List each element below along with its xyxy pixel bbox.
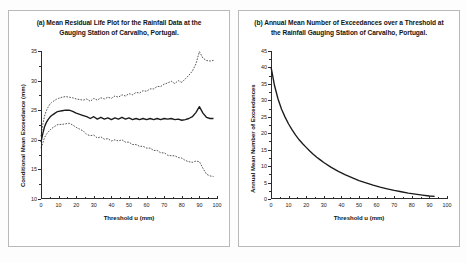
chart-a-x-tick — [41, 196, 42, 199]
chart-b-x-tick-label: 70 — [391, 202, 397, 208]
chart-a-y-tick-label: 25 — [31, 107, 37, 113]
chart-b-y-tick — [268, 117, 271, 118]
chart-a-title-line2: Gauging Station of Carvalho, Portugal. — [15, 28, 223, 38]
chart-b-series-line — [271, 67, 435, 197]
chart-b-x-minor-tick — [385, 197, 386, 199]
chart-b-y-tick-label: 35 — [261, 81, 267, 87]
chart-a-x-tick — [147, 196, 148, 199]
chart-b-x-tick-label: 90 — [426, 202, 432, 208]
chart-a-x-tick-label: 30 — [91, 202, 97, 208]
chart-a-x-minor-tick — [208, 197, 209, 199]
chart-b-y-tick-label: 25 — [261, 114, 267, 120]
chart-a-y-tick — [38, 169, 41, 170]
chart-b-x-tick-label: 0 — [270, 202, 273, 208]
chart-a-x-tick — [164, 196, 165, 199]
chart-b-y-minor-tick — [269, 109, 271, 110]
chart-a-x-tick — [199, 196, 200, 199]
chart-b-x-tick-label: 50 — [356, 202, 362, 208]
chart-b-curves — [271, 51, 447, 199]
chart-b-y-tick-label: 0 — [264, 196, 267, 202]
chart-a-x-tick-label: 40 — [108, 202, 114, 208]
chart-a-x-minor-tick — [138, 197, 139, 199]
chart-b-title-line1: (b) Annual Mean Number of Exceedances ov… — [245, 18, 453, 28]
chart-a-x-minor-tick — [50, 197, 51, 199]
chart-a-x-tick-label: 50 — [126, 202, 132, 208]
chart-panel-a: (a) Mean Residual Life Plot for the Rain… — [8, 10, 230, 247]
chart-b-x-tick — [447, 196, 448, 199]
chart-b-y-tick — [268, 100, 271, 101]
chart-b-x-minor-tick — [315, 197, 316, 199]
chart-a-curves — [41, 51, 217, 199]
chart-b-y-tick — [268, 166, 271, 167]
chart-a-x-minor-tick — [155, 197, 156, 199]
chart-b-y-tick-label: 20 — [261, 130, 267, 136]
chart-b-x-tick — [271, 196, 272, 199]
chart-a-y-tick-label: 30 — [31, 78, 37, 84]
chart-b-x-minor-tick — [403, 197, 404, 199]
chart-a-series-line — [41, 123, 213, 176]
chart-b-x-tick-label: 60 — [374, 202, 380, 208]
chart-a-x-minor-tick — [173, 197, 174, 199]
chart-b-y-tick — [268, 51, 271, 52]
chart-a-title-line1: (a) Mean Residual Life Plot for the Rain… — [15, 18, 223, 28]
chart-b-x-minor-tick — [421, 197, 422, 199]
chart-a-x-tick — [111, 196, 112, 199]
chart-b-x-tick — [359, 196, 360, 199]
chart-a-x-tick — [182, 196, 183, 199]
chart-b-y-minor-tick — [269, 76, 271, 77]
chart-b-x-minor-tick — [350, 197, 351, 199]
chart-b-y-axis-title: Annual Mean Number of Exceedances — [250, 84, 256, 193]
chart-b-y-minor-tick — [269, 158, 271, 159]
chart-a-series-line — [41, 107, 213, 143]
chart-a-x-minor-tick — [191, 197, 192, 199]
chart-b-y-tick — [268, 67, 271, 68]
chart-b-y-tick — [268, 84, 271, 85]
figure-page: (a) Mean Residual Life Plot for the Rain… — [0, 0, 467, 263]
chart-a-x-tick — [59, 196, 60, 199]
chart-a-y-minor-tick — [39, 66, 41, 67]
chart-a-x-tick-label: 70 — [161, 202, 167, 208]
chart-b-y-tick-label: 45 — [261, 48, 267, 54]
chart-a-y-tick — [38, 81, 41, 82]
chart-b-x-tick — [429, 196, 430, 199]
chart-b-x-minor-tick — [333, 197, 334, 199]
chart-a-y-tick-label: 15 — [31, 166, 37, 172]
chart-b-x-tick — [306, 196, 307, 199]
chart-a-x-tick-label: 10 — [56, 202, 62, 208]
chart-a-y-axis-title: Conditional Mean Exceedance (mm) — [20, 84, 26, 187]
chart-a-x-tick-label: 90 — [196, 202, 202, 208]
chart-b-x-axis-title: Threshold u (mm) — [271, 215, 447, 221]
chart-a-y-tick-label: 35 — [31, 48, 37, 54]
chart-b-x-tick-label: 20 — [303, 202, 309, 208]
chart-a-y-minor-tick — [39, 95, 41, 96]
chart-a-y-tick — [38, 199, 41, 200]
chart-b-x-tick-label: 30 — [321, 202, 327, 208]
chart-a-title: (a) Mean Residual Life Plot for the Rain… — [15, 18, 223, 37]
chart-b-y-tick-label: 15 — [261, 147, 267, 153]
chart-a-x-tick-label: 80 — [179, 202, 185, 208]
chart-b-y-minor-tick — [269, 174, 271, 175]
chart-a-x-tick — [94, 196, 95, 199]
chart-b-x-minor-tick — [438, 197, 439, 199]
chart-a-x-tick — [129, 196, 130, 199]
chart-b-y-tick-label: 10 — [261, 163, 267, 169]
chart-b-x-tick — [377, 196, 378, 199]
chart-a-x-tick-label: 0 — [40, 202, 43, 208]
chart-b-y-minor-tick — [269, 141, 271, 142]
chart-a-y-minor-tick — [39, 184, 41, 185]
chart-b-y-tick — [268, 133, 271, 134]
chart-b-y-tick — [268, 183, 271, 184]
chart-b-x-tick — [412, 196, 413, 199]
chart-b-y-tick-label: 40 — [261, 64, 267, 70]
chart-b-x-tick-label: 40 — [338, 202, 344, 208]
chart-a-y-tick-label: 10 — [31, 196, 37, 202]
chart-b-x-tick — [341, 196, 342, 199]
chart-a-y-minor-tick — [39, 155, 41, 156]
chart-a-x-tick — [76, 196, 77, 199]
chart-b-y-minor-tick — [269, 125, 271, 126]
chart-a-y-tick — [38, 140, 41, 141]
chart-b-x-minor-tick — [297, 197, 298, 199]
chart-a-x-tick-label: 60 — [144, 202, 150, 208]
chart-b-x-minor-tick — [368, 197, 369, 199]
chart-a-x-minor-tick — [120, 197, 121, 199]
